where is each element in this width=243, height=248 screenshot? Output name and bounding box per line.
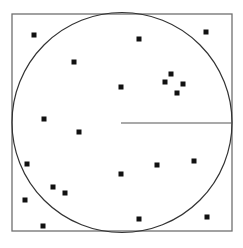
sample-point (72, 60, 77, 65)
sample-point (205, 215, 210, 220)
sample-point (163, 80, 168, 85)
sample-point (63, 191, 68, 196)
sample-point (192, 159, 197, 164)
sample-point (119, 85, 124, 90)
sample-point (137, 37, 142, 42)
sample-point (23, 198, 28, 203)
sample-point (25, 162, 30, 167)
sample-point (41, 224, 46, 229)
random-points (23, 30, 210, 229)
sample-point (51, 185, 56, 190)
sample-point (155, 163, 160, 168)
sample-point (181, 82, 186, 87)
sample-point (32, 33, 37, 38)
monte-carlo-diagram (0, 0, 243, 248)
sample-point (77, 130, 82, 135)
sample-point (119, 172, 124, 177)
sample-point (137, 217, 142, 222)
sample-point (175, 91, 180, 96)
sample-point (169, 72, 174, 77)
sample-point (204, 30, 209, 35)
sample-point (42, 117, 47, 122)
